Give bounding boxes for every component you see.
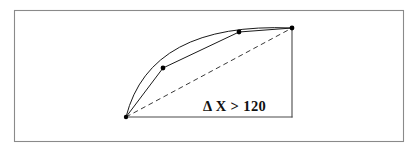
interior-node-1-marker	[161, 66, 166, 71]
delta-x-threshold-label: Δ X > 120	[203, 98, 266, 114]
endpoint-node-marker	[290, 26, 295, 31]
outer-frame-border	[15, 11, 404, 142]
figure-container: Δ X > 120	[0, 0, 416, 152]
interior-node-2-marker	[237, 30, 242, 35]
geometry-diagram: Δ X > 120	[0, 0, 416, 152]
origin-node-marker	[124, 115, 128, 119]
